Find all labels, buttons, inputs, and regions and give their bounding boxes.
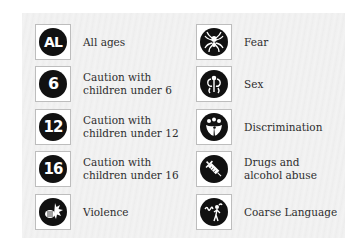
legend-label: Caution with children under 16 xyxy=(83,156,179,182)
legend-label: All ages xyxy=(83,36,125,49)
legend-label: Caution with children under 12 xyxy=(83,114,179,140)
rating-6-icon: 6 xyxy=(35,66,71,102)
fear-spider-icon xyxy=(196,24,232,60)
legend-label: Coarse Language xyxy=(244,206,337,219)
legend-item-sex: Sex xyxy=(196,65,346,103)
discrimination-icon xyxy=(196,109,232,145)
legend-label: Discrimination xyxy=(244,121,322,134)
legend-item-fear: Fear xyxy=(196,23,346,61)
rating-legend-panel: AL All ages 6 Caution with children unde… xyxy=(22,13,345,238)
legend-item-violence: Violence xyxy=(35,193,185,231)
rating-12-icon: 12 xyxy=(35,109,71,145)
legend-label: Drugs and alcohol abuse xyxy=(244,156,317,182)
legend-label: Caution with children under 6 xyxy=(83,71,172,97)
all-ages-icon: AL xyxy=(35,24,71,60)
legend-label: Sex xyxy=(244,78,263,91)
drugs-syringe-icon xyxy=(196,151,232,187)
legend-label: Violence xyxy=(83,206,129,219)
rating-16-icon: 16 xyxy=(35,151,71,187)
legend-item-coarse-language: Coarse Language xyxy=(196,193,346,231)
legend-item-all-ages: AL All ages xyxy=(35,23,185,61)
legend-item-under-6: 6 Caution with children under 6 xyxy=(35,65,185,103)
legend-item-discrimination: Discrimination xyxy=(196,108,346,146)
coarse-language-icon xyxy=(196,194,232,230)
violence-icon xyxy=(35,194,71,230)
sex-icon xyxy=(196,66,232,102)
legend-item-under-16: 16 Caution with children under 16 xyxy=(35,150,185,188)
legend-label: Fear xyxy=(244,36,268,49)
legend-item-under-12: 12 Caution with children under 12 xyxy=(35,108,185,146)
legend-item-drugs: Drugs and alcohol abuse xyxy=(196,150,346,188)
